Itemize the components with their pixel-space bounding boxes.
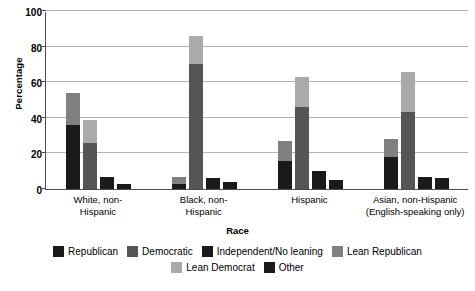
bar-segment (66, 125, 80, 189)
bar-segment (418, 177, 432, 189)
bar-chart: Percentage 020406080100 White, non-Hispa… (0, 0, 475, 291)
legend-item-lean-republican[interactable]: Lean Republican (332, 246, 422, 257)
chart-legend: RepublicanDemocraticIndependent/No leani… (0, 246, 475, 278)
legend-swatch-icon (202, 246, 213, 257)
y-tick-label: 100 (14, 7, 42, 18)
bar-segment (66, 93, 80, 125)
bar[interactable] (312, 171, 326, 189)
bar-group (46, 12, 152, 189)
bar[interactable] (278, 141, 292, 189)
x-category-label-line: Hispanic (45, 206, 151, 218)
bar-segment (312, 171, 326, 189)
bar[interactable] (172, 177, 186, 189)
bar-group (258, 12, 364, 189)
bar[interactable] (401, 72, 415, 189)
gridline (46, 10, 468, 11)
bar-segment (83, 143, 97, 189)
bar-segment (189, 64, 203, 189)
bar[interactable] (223, 182, 237, 189)
x-category-label-line: Asian, non-Hispanic (362, 194, 468, 206)
legend-item-lean-democrat[interactable]: Lean Democrat (171, 262, 254, 273)
legend-swatch-icon (332, 246, 343, 257)
y-tick-label: 80 (14, 42, 42, 53)
legend-swatch-icon (264, 262, 275, 273)
bar[interactable] (66, 93, 80, 189)
legend-swatch-icon (127, 246, 138, 257)
bar[interactable] (117, 184, 131, 189)
bar-segment (401, 112, 415, 189)
bar-group (152, 12, 258, 189)
x-category-label-line: White, non- (45, 194, 151, 206)
bar-segment (329, 180, 343, 189)
bar[interactable] (100, 177, 114, 189)
x-category-label-line: Black, non- (151, 194, 257, 206)
bar-segment (278, 141, 292, 161)
bar-segment (435, 178, 449, 189)
bar[interactable] (384, 139, 398, 189)
bar-segment (206, 178, 220, 189)
x-category-label-line: Hispanic (151, 206, 257, 218)
legend-item-other[interactable]: Other (264, 262, 304, 273)
y-tick-label: 40 (14, 113, 42, 124)
legend-item-democratic[interactable]: Democratic (127, 246, 193, 257)
bar[interactable] (295, 77, 309, 189)
y-tick-label: 20 (14, 149, 42, 160)
bar-group (363, 12, 469, 189)
legend-label: Republican (68, 246, 118, 257)
legend-swatch-icon (53, 246, 64, 257)
bar-segment (384, 139, 398, 157)
bar-segment (117, 184, 131, 189)
bar-segment (172, 177, 186, 184)
x-category-label-line: (English-speaking only) (362, 206, 468, 218)
legend-item-independent[interactable]: Independent/No leaning (202, 246, 323, 257)
bar-segment (172, 184, 186, 189)
bar-segment (295, 107, 309, 189)
legend-label: Other (279, 262, 304, 273)
legend-row: Lean DemocratOther (0, 262, 475, 273)
legend-item-republican[interactable]: Republican (53, 246, 118, 257)
bar-segment (189, 36, 203, 64)
y-tick-label: 0 (14, 185, 42, 196)
x-axis-title: Race (0, 225, 475, 236)
legend-row: RepublicanDemocraticIndependent/No leani… (0, 246, 475, 257)
x-category-label: White, non-Hispanic (45, 194, 151, 218)
bar[interactable] (418, 177, 432, 189)
bar[interactable] (83, 120, 97, 189)
bar[interactable] (329, 180, 343, 189)
plot-area (45, 12, 468, 190)
x-category-label: Asian, non-Hispanic(English-speaking onl… (362, 194, 468, 218)
legend-label: Lean Democrat (186, 262, 254, 273)
bar-segment (384, 157, 398, 189)
y-tick-label: 60 (14, 78, 42, 89)
bar-segment (100, 177, 114, 189)
bar-segment (295, 77, 309, 107)
x-category-label: Hispanic (257, 194, 363, 206)
legend-label: Lean Republican (347, 246, 422, 257)
x-category-label: Black, non-Hispanic (151, 194, 257, 218)
x-category-label-line: Hispanic (257, 194, 363, 206)
bar[interactable] (435, 178, 449, 189)
bar-segment (223, 182, 237, 189)
legend-label: Independent/No leaning (217, 246, 323, 257)
y-tick-mark (42, 10, 46, 11)
legend-label: Democratic (142, 246, 193, 257)
legend-swatch-icon (171, 262, 182, 273)
bar[interactable] (189, 36, 203, 189)
bar-segment (401, 72, 415, 113)
bar-segment (83, 120, 97, 143)
bar[interactable] (206, 178, 220, 189)
bar-segment (278, 161, 292, 189)
